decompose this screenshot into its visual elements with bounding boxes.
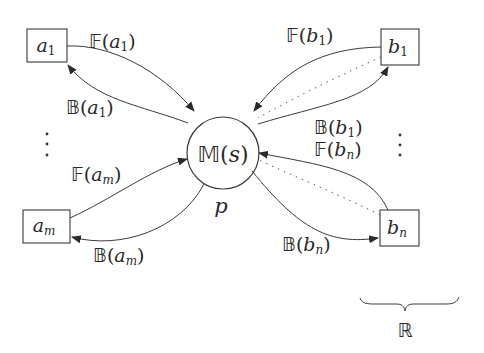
right-ellipsis [399,134,402,157]
label-F-a1: 𝔽(a1) [89,30,136,54]
node-am[interactable]: am [23,210,70,243]
edge-dotted-b1 [258,57,381,118]
node-bn[interactable]: bn [380,210,419,246]
svg-text:𝕄(s): 𝕄(s) [197,142,248,167]
label-F-bn: 𝔽(bn) [314,138,362,162]
label-F-am: 𝔽(am) [71,163,121,187]
node-a1[interactable]: a1 [27,29,67,62]
label-F-b1: 𝔽(b1) [286,24,333,48]
edge-B-bn [252,171,378,240]
label-B-bn: 𝔹(bn) [282,233,331,257]
label-B-am: 𝔹(am) [93,244,144,268]
label-B-b1: 𝔹(b1) [314,116,363,140]
brace-label-R: ℝ [397,319,412,341]
center-node-M[interactable]: 𝕄(s) [187,117,259,189]
label-B-a1: 𝔹(a1) [66,96,114,120]
edge-dotted-bn [259,160,380,215]
edge-B-am [72,184,204,241]
underbrace [360,297,459,311]
edge-F-b1 [254,47,381,111]
edge-F-bn [259,153,388,210]
process-diagram: 𝕄(s) p a1 am b1 bn 𝔽(a1) 𝔹(a1) 𝔽(am) 𝔹(a… [0,0,484,353]
left-ellipsis [46,133,49,157]
node-b1[interactable]: b1 [381,29,419,65]
center-caption-p: p [214,194,227,218]
center-label-arg: s [229,142,240,167]
center-label-op: 𝕄 [197,142,220,167]
